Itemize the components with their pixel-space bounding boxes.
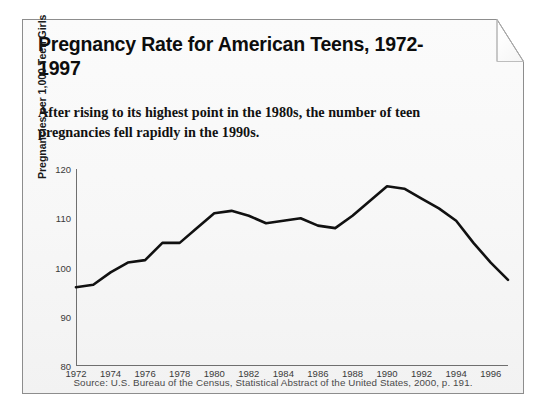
page-title: Pregnancy Rate for American Teens, 1972-…	[38, 32, 458, 80]
screenshot-canvas: Pregnancy Rate for American Teens, 1972-…	[0, 0, 555, 408]
source-note: Source: U.S. Bureau of the Census, Stati…	[22, 377, 524, 388]
fact-sheet-card: Pregnancy Rate for American Teens, 1972-…	[22, 19, 524, 394]
data-series-line	[76, 169, 508, 366]
y-axis-title: Pregnancies per 1,000 Teen Girls	[36, 19, 48, 179]
y-tick-label: 120	[55, 164, 71, 175]
y-tick-label: 100	[55, 262, 71, 273]
y-tick-label: 90	[60, 311, 71, 322]
y-tick-label: 110	[56, 213, 71, 224]
page-subtitle: After rising to its highest point in the…	[38, 102, 488, 142]
line-chart: Pregnancies per 1,000 Teen Girls 8090100…	[38, 169, 508, 369]
plot-area: 8090100110120 19721974197619781980198219…	[76, 169, 508, 366]
folded-corner-icon	[497, 19, 524, 62]
